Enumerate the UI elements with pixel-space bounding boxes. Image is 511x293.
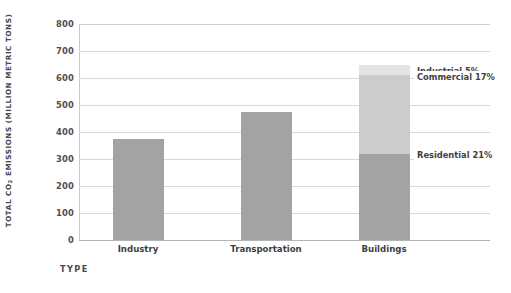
y-tick-100: 100 — [34, 208, 74, 218]
bar-buildings — [359, 65, 410, 240]
x-tick-industry: Industry — [78, 244, 198, 254]
y-tick-400: 400 — [34, 127, 74, 137]
bar-transportation — [241, 112, 292, 240]
gridline-800 — [79, 24, 490, 25]
bar-segment-residential — [113, 139, 164, 240]
plot-area — [79, 24, 490, 240]
y-tick-800: 800 — [34, 19, 74, 29]
x-tick-buildings: Buildings — [324, 244, 444, 254]
y-axis-title: TOTAL CO2 EMISSIONS (MILLION METRIC TONS… — [0, 0, 18, 240]
bar-segment-commercial — [359, 75, 410, 153]
gridline-700 — [79, 51, 490, 52]
y-axis-title-suffix: EMISSIONS (MILLION METRIC TONS) — [5, 13, 14, 178]
y-tick-200: 200 — [34, 181, 74, 191]
annotation-commercial: Commercial 17% — [414, 71, 497, 83]
y-tick-600: 600 — [34, 73, 74, 83]
y-axis-title-subscript: 2 — [8, 179, 14, 183]
y-tick-700: 700 — [34, 46, 74, 56]
x-axis-title: TYPE — [60, 264, 89, 274]
y-tick-300: 300 — [34, 154, 74, 164]
bar-segment-residential — [241, 112, 292, 240]
bar-industry — [113, 139, 164, 240]
co2-emissions-bar-chart: TOTAL CO2 EMISSIONS (MILLION METRIC TONS… — [0, 0, 511, 293]
gridline-500 — [79, 105, 490, 106]
bar-segment-industrial — [359, 65, 410, 76]
y-axis-title-prefix: TOTAL CO — [5, 183, 14, 227]
x-tick-transportation: Transportation — [206, 244, 326, 254]
annotation-residential: Residential 21% — [414, 149, 494, 161]
y-tick-0: 0 — [34, 235, 74, 245]
x-axis-line — [79, 240, 490, 241]
bar-segment-residential — [359, 154, 410, 240]
y-tick-500: 500 — [34, 100, 74, 110]
